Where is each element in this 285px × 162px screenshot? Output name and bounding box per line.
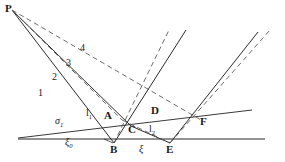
- ray-label-1: 1: [38, 88, 43, 98]
- reflected-ray-from-E-solid: [170, 32, 258, 143]
- greek-label-xi: ξ: [139, 144, 143, 154]
- ray-4-dashed: [12, 10, 201, 120]
- point-label-D: D: [151, 105, 159, 116]
- ray-label-2: 2: [52, 72, 57, 82]
- segment-label-l1: l1: [86, 108, 92, 121]
- point-label-F: F: [200, 116, 207, 127]
- ray-3-solid: [12, 10, 131, 126]
- reflected-ray-from-B-dashed: [114, 30, 169, 143]
- segment-label-l2: l2: [149, 124, 155, 137]
- point-label-E: E: [166, 144, 173, 155]
- ray-label-4: 4: [80, 43, 85, 53]
- diagram-canvas: [0, 0, 285, 162]
- ray-diagram-figure: P A B C D E F 1 2 3 4 l1 l2 σ1 ξ0 ξ: [0, 0, 285, 162]
- greek-label-sigma1-sub: 1: [60, 121, 63, 128]
- ray-label-3: 3: [66, 58, 71, 68]
- point-label-C: C: [128, 124, 136, 135]
- point-label-B: B: [110, 144, 117, 155]
- greek-label-xi0: ξ0: [65, 137, 73, 150]
- segment-label-l1-sub: 1: [89, 113, 92, 120]
- point-label-P: P: [5, 3, 12, 14]
- segment-label-l2-sub: 2: [152, 129, 155, 136]
- point-label-A: A: [104, 110, 112, 121]
- greek-label-sigma1: σ1: [55, 116, 63, 129]
- greek-label-xi0-sub: 0: [69, 142, 72, 149]
- reflected-ray-from-F-dashed: [170, 30, 270, 143]
